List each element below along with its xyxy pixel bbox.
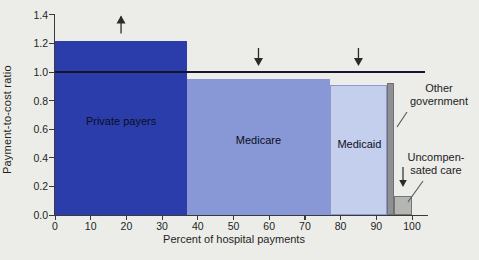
- annotation-other-government-line1: Other: [404, 82, 474, 95]
- x-tick-label: 40: [185, 221, 211, 231]
- annotation-other-government-line2: government: [404, 95, 474, 108]
- y-tick-label: 0.2: [26, 181, 48, 191]
- payment-to-cost-chart: Payment-to-cost ratio 0.00.20.40.60.81.0…: [0, 0, 479, 260]
- y-tick-mark: [49, 72, 54, 73]
- y-tick-mark: [49, 14, 54, 15]
- y-tick-mark: [49, 215, 54, 216]
- bar-label-medicare: Medicare: [236, 134, 281, 146]
- x-tick-label: 60: [256, 221, 282, 231]
- reference-line-1.0: [55, 71, 425, 73]
- y-tick-mark: [49, 157, 54, 158]
- bar-uncompensated-care: [394, 196, 412, 215]
- y-axis-title: Payment-to-cost ratio: [1, 50, 17, 190]
- x-tick-label: 70: [292, 221, 318, 231]
- x-tick-label: 10: [78, 221, 104, 231]
- x-tick-label: 30: [149, 221, 175, 231]
- y-tick-label: 0.4: [26, 153, 48, 163]
- x-tick-label: 20: [113, 221, 139, 231]
- bar-other-government: [387, 83, 394, 215]
- other-government-pointer-line: [397, 112, 407, 127]
- x-axis-title: Percent of hospital payments: [55, 233, 413, 245]
- down-arrow-medicaid: [354, 48, 363, 66]
- up-arrow-private-payers: [117, 16, 126, 34]
- y-tick-mark: [49, 186, 54, 187]
- y-tick-label: 0.6: [26, 124, 48, 134]
- bar-medicare: Medicare: [187, 79, 330, 215]
- y-tick-label: 1.0: [26, 67, 48, 77]
- y-tick-label: 1.4: [26, 10, 48, 20]
- x-tick-label: 90: [363, 221, 389, 231]
- x-axis-line: [54, 215, 428, 216]
- x-tick-label: 100: [399, 221, 425, 231]
- bar-medicaid: Medicaid: [330, 85, 387, 215]
- y-tick-mark: [49, 129, 54, 130]
- y-tick-label: 0.0: [26, 210, 48, 220]
- bar-private-payers: Private payers: [55, 41, 187, 215]
- annotation-uncompensated-care-line2: sated care: [400, 164, 472, 177]
- x-tick-label: 80: [328, 221, 354, 231]
- bar-label-private-payers: Private payers: [86, 115, 156, 127]
- annotation-uncompensated-care: Uncompen- sated care: [400, 151, 472, 177]
- down-arrow-medicare: [254, 48, 263, 66]
- y-tick-label: 1.2: [26, 38, 48, 48]
- x-tick-label: 0: [42, 221, 68, 231]
- annotation-uncompensated-care-line1: Uncompen-: [400, 151, 472, 164]
- y-tick-mark: [49, 100, 54, 101]
- y-tick-label: 0.8: [26, 96, 48, 106]
- x-tick-label: 50: [221, 221, 247, 231]
- bar-label-medicaid: Medicaid: [337, 138, 381, 150]
- annotation-other-government: Other government: [404, 82, 474, 108]
- y-tick-mark: [49, 43, 54, 44]
